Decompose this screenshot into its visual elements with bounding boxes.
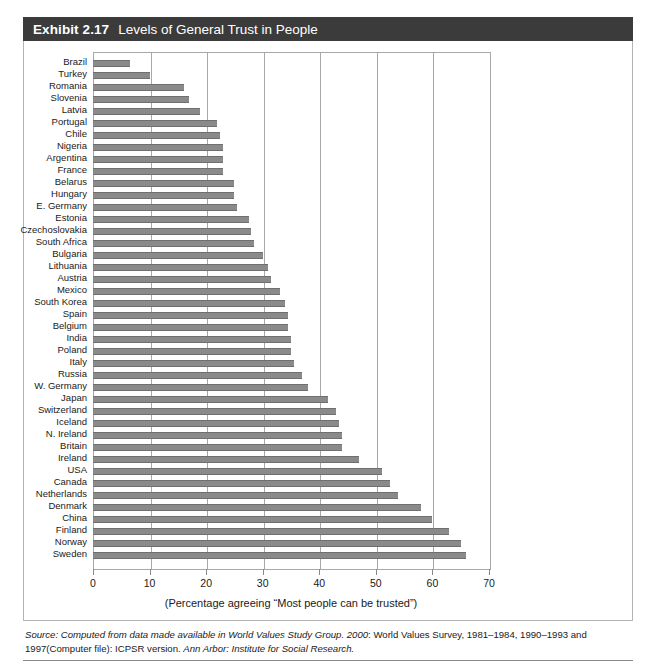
bar (93, 540, 461, 546)
y-axis-label: Bulgaria (52, 248, 87, 259)
bar-row: Sweden (93, 550, 489, 561)
x-tick-label-50: 50 (370, 577, 382, 589)
bar (93, 180, 234, 186)
bar (93, 444, 342, 450)
bar (93, 504, 421, 510)
bar-row: Austria (93, 274, 489, 285)
source-italic-1: Computed from data made available in Wor… (61, 629, 368, 640)
y-axis-label: South Africa (36, 236, 87, 247)
bar-row: Italy (93, 358, 489, 369)
bar (93, 480, 390, 486)
y-axis-label: Nigeria (57, 140, 87, 151)
y-axis-label: Switzerland (38, 404, 87, 415)
y-axis-label: Sweden (53, 548, 87, 559)
bar (93, 348, 291, 354)
bar (93, 276, 271, 282)
bar-row: Nigeria (93, 142, 489, 153)
bottom-divider (23, 660, 633, 661)
y-axis-label: Japan (61, 392, 87, 403)
y-axis-label: Canada (54, 476, 87, 487)
x-tick-label-60: 60 (427, 577, 439, 589)
source-italic-2: Ann Arbor: Institute for Social Research… (183, 643, 354, 654)
bar (93, 108, 200, 114)
y-axis-label: Iceland (56, 416, 87, 427)
x-tick-label-20: 20 (200, 577, 212, 589)
y-axis-label: China (62, 512, 87, 523)
y-axis-label: Belarus (55, 176, 87, 187)
exhibit-figure: Exhibit 2.17 Levels of General Trust in … (0, 0, 656, 666)
bar (93, 324, 288, 330)
bar-row: Netherlands (93, 490, 489, 501)
y-axis-label: Portugal (52, 116, 87, 127)
y-axis-label: E. Germany (36, 200, 87, 211)
bar-row: Norway (93, 538, 489, 549)
x-tick-50 (376, 569, 377, 575)
bar (93, 228, 251, 234)
y-axis-label: Norway (55, 536, 87, 547)
x-tick-10 (150, 569, 151, 575)
bar-row: Canada (93, 478, 489, 489)
y-axis-label: Poland (57, 344, 87, 355)
bar-row: Japan (93, 394, 489, 405)
y-axis-label: Austria (57, 272, 87, 283)
bar (93, 492, 398, 498)
bar (93, 336, 291, 342)
x-tick-60 (432, 569, 433, 575)
x-tick-label-0: 0 (90, 577, 96, 589)
y-axis-label: Russia (58, 368, 87, 379)
bar (93, 96, 189, 102)
y-axis-label: Czechoslovakia (20, 224, 87, 235)
bar (93, 252, 263, 258)
bar-row: Iceland (93, 418, 489, 429)
y-axis-label: Netherlands (36, 488, 87, 499)
bar-row: Ireland (93, 454, 489, 465)
bar-row: Czechoslovakia (93, 226, 489, 237)
bar-row: E. Germany (93, 202, 489, 213)
bar (93, 528, 449, 534)
bar-row: Britain (93, 442, 489, 453)
x-tick-label-10: 10 (144, 577, 156, 589)
bar (93, 204, 237, 210)
bar (93, 516, 432, 522)
y-axis-label: USA (67, 464, 87, 475)
bar (93, 552, 466, 558)
bar (93, 264, 268, 270)
y-axis-label: Ireland (58, 452, 87, 463)
bar-row: N. Ireland (93, 430, 489, 441)
y-axis-label: Argentina (46, 152, 87, 163)
bar (93, 468, 382, 474)
bar-chart: BrazilTurkeyRomaniaSloveniaLatviaPortuga… (0, 0, 656, 666)
bar-row: Belgium (93, 322, 489, 333)
y-axis-label: Lithuania (48, 260, 87, 271)
bar-row: Belarus (93, 178, 489, 189)
bar (93, 372, 302, 378)
bar (93, 384, 308, 390)
bar (93, 156, 223, 162)
y-axis-label: Italy (70, 356, 87, 367)
bar-row: Denmark (93, 502, 489, 513)
y-axis-label: Finland (56, 524, 87, 535)
bar-row: South Africa (93, 238, 489, 249)
bar-row: Argentina (93, 154, 489, 165)
bar (93, 408, 336, 414)
y-axis-label: South Korea (34, 296, 87, 307)
bar-row: Mexico (93, 286, 489, 297)
bar-row: Spain (93, 310, 489, 321)
y-axis-label: Chile (65, 128, 87, 139)
x-axis: 010203040506070 (93, 569, 489, 575)
bar-row: Brazil (93, 58, 489, 69)
x-tick-30 (263, 569, 264, 575)
y-axis-label: Britain (60, 440, 87, 451)
x-tick-20 (206, 569, 207, 575)
bar (93, 432, 342, 438)
bar (93, 144, 223, 150)
bar (93, 192, 234, 198)
x-axis-caption: (Percentage agreeing “Most people can be… (93, 597, 489, 609)
bar-rows: BrazilTurkeyRomaniaSloveniaLatviaPortuga… (93, 52, 489, 568)
bar (93, 288, 280, 294)
y-axis-label: Belgium (53, 320, 87, 331)
bar-row: Switzerland (93, 406, 489, 417)
y-axis-label: Denmark (48, 500, 87, 511)
bar (93, 168, 223, 174)
bar (93, 120, 217, 126)
